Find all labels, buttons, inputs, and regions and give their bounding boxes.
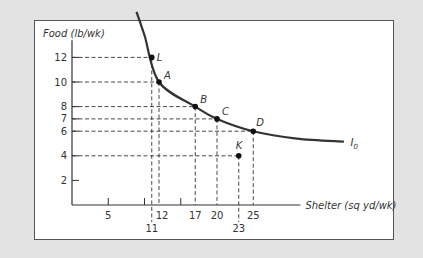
point-label-C: C <box>222 106 229 117</box>
curve-label: I0 <box>351 137 359 151</box>
x-tick-label: 11 <box>145 223 158 234</box>
x-tick-label: 17 <box>189 210 202 221</box>
indifference-curve-chart: 2467810125111217202325LABCDKI0Food (lb/w… <box>0 0 423 258</box>
x-tick-label: 23 <box>232 223 245 234</box>
x-tick-label: 12 <box>156 210 169 221</box>
y-tick-label: 6 <box>61 126 67 137</box>
point-C <box>214 116 220 122</box>
y-tick-label: 2 <box>61 175 67 186</box>
point-L <box>149 55 155 61</box>
y-tick-label: 8 <box>61 101 67 112</box>
point-A <box>156 79 162 85</box>
x-tick-label: 5 <box>105 210 111 221</box>
x-tick-label: 25 <box>247 210 260 221</box>
y-axis-label: Food (lb/wk) <box>43 28 105 39</box>
point-label-A: A <box>163 70 171 81</box>
point-B <box>192 104 198 110</box>
y-tick-label: 7 <box>61 113 67 124</box>
point-label-D: D <box>256 117 264 128</box>
point-label-L: L <box>157 52 163 63</box>
point-D <box>250 128 256 134</box>
x-tick-label: 20 <box>211 210 224 221</box>
x-axis-label: Shelter (sq yd/wk) <box>305 200 396 211</box>
y-tick-label: 4 <box>61 150 67 161</box>
point-K <box>236 153 242 159</box>
y-tick-label: 10 <box>54 77 67 88</box>
point-label-B: B <box>200 94 207 105</box>
y-tick-label: 12 <box>54 52 67 63</box>
point-label-K: K <box>236 140 244 151</box>
